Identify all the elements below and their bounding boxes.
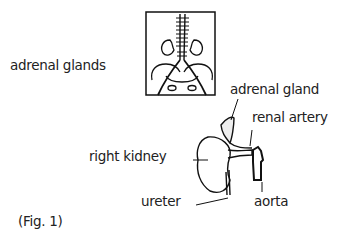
label-ureter: ureter — [141, 195, 180, 209]
inset-skeleton-figure — [146, 12, 215, 95]
kidney-closeup — [197, 117, 263, 195]
label-aorta: aorta — [254, 195, 288, 209]
label-adrenal-gland: adrenal gland — [230, 83, 319, 97]
label-adrenal-glands: adrenal glands — [10, 59, 106, 73]
figure-caption: (Fig. 1) — [18, 215, 62, 229]
label-renal-artery: renal artery — [252, 111, 328, 125]
label-right-kidney: right kidney — [89, 150, 166, 164]
